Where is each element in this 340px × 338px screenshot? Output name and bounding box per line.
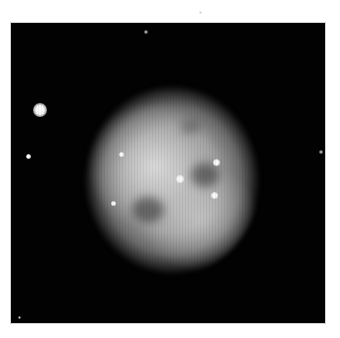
image-canvas <box>0 0 340 338</box>
star-faint-left <box>26 154 31 159</box>
nebula-dark-region <box>132 197 164 223</box>
nebula-dark-region <box>180 120 200 134</box>
star-upper-right-in-nebula <box>213 159 220 166</box>
star-central <box>176 175 184 183</box>
star-bright-left <box>33 103 47 117</box>
star-lower-right-in-nebula <box>211 192 218 199</box>
nebula <box>84 85 260 275</box>
star-bottom-left-corner <box>18 316 21 319</box>
background-speck <box>199 11 202 14</box>
star-right-edge <box>319 150 323 154</box>
astronomical-photo-frame <box>11 23 325 323</box>
star-left-in-nebula <box>119 152 124 157</box>
nebula-dark-region <box>191 163 219 187</box>
star-top <box>144 30 148 34</box>
star-lower-left-in-nebula <box>111 201 116 206</box>
